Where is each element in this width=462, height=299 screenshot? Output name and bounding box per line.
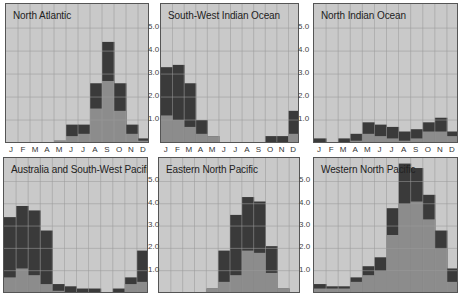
y-tick-label: 3.0 — [298, 68, 312, 77]
y-tick-label: 5.0 — [148, 175, 162, 184]
y-tick-label: 1.0 — [148, 114, 162, 123]
bars-north-atlantic — [6, 4, 149, 143]
month-label: N — [276, 145, 288, 154]
month-label: F — [17, 145, 29, 154]
panel-australia-sw-pacific: Australia and South-West Pacific — [3, 157, 148, 293]
month-label: J — [77, 145, 89, 154]
month-label: M — [183, 145, 195, 154]
y-tick-label: 4.0 — [148, 45, 162, 54]
month-label: M — [206, 145, 218, 154]
month-label: M — [361, 145, 373, 154]
month-label: A — [41, 145, 53, 154]
month-label: J — [218, 145, 230, 154]
panel-north-indian-ocean: North Indian Ocean — [313, 3, 458, 143]
panel-north-atlantic: North Atlantic — [5, 3, 149, 143]
bars-australia-sw-pacific — [4, 158, 148, 293]
panel-title: South-West Indian Ocean — [168, 10, 280, 21]
y-tick-label: 2.0 — [148, 91, 162, 100]
month-axis-south-west-indian: JFMAMJJASOND — [160, 145, 299, 154]
month-label: O — [264, 145, 276, 154]
y-tick-label: 3.0 — [148, 220, 162, 229]
y-tick-label: 4.0 — [298, 45, 312, 54]
panel-title: North Indian Ocean — [321, 10, 406, 21]
y-tick-label: 4.0 — [148, 198, 162, 207]
month-label: J — [313, 145, 325, 154]
y-tick-label: 1.0 — [299, 265, 313, 274]
month-label: A — [89, 145, 101, 154]
month-label: J — [5, 145, 17, 154]
y-tick-label: 4.0 — [299, 198, 313, 207]
month-label: J — [385, 145, 397, 154]
month-label: J — [373, 145, 385, 154]
month-label: A — [398, 145, 410, 154]
month-label: F — [172, 145, 184, 154]
month-label: N — [434, 145, 446, 154]
month-label: O — [422, 145, 434, 154]
month-label: A — [349, 145, 361, 154]
panel-title: Eastern North Pacific — [166, 164, 258, 175]
y-tick-label: 2.0 — [148, 242, 162, 251]
month-label: D — [287, 145, 299, 154]
bars-western-north-pacific — [314, 158, 458, 293]
bars-eastern-north-pacific — [159, 158, 300, 293]
month-label: J — [160, 145, 172, 154]
panel-eastern-north-pacific: Eastern North Pacific — [158, 157, 300, 293]
month-label: S — [410, 145, 422, 154]
panel-title: North Atlantic — [13, 10, 71, 21]
month-label: O — [113, 145, 125, 154]
y-tick-label: 5.0 — [299, 175, 313, 184]
month-label: M — [53, 145, 65, 154]
y-tick-label: 3.0 — [148, 68, 162, 77]
month-label: J — [229, 145, 241, 154]
y-tick-label: 5.0 — [148, 22, 162, 31]
y-tick-label: 1.0 — [298, 114, 312, 123]
panel-south-west-indian-ocean: South-West Indian Ocean — [160, 3, 299, 143]
panel-title: Australia and South-West Pacific — [11, 164, 148, 175]
month-axis-north-atlantic: JFMAMJJASOND — [5, 145, 149, 154]
month-axis-north-indian: JFMAMJJASOND — [313, 145, 458, 154]
month-label: D — [137, 145, 149, 154]
y-tick-label: 2.0 — [298, 91, 312, 100]
month-label: N — [125, 145, 137, 154]
month-label: A — [195, 145, 207, 154]
y-tick-label: 1.0 — [148, 265, 162, 274]
month-label: F — [325, 145, 337, 154]
month-label: S — [101, 145, 113, 154]
y-tick-label: 3.0 — [299, 220, 313, 229]
panel-title: Western North Pacific — [321, 164, 415, 175]
month-label: S — [253, 145, 265, 154]
month-label: D — [446, 145, 458, 154]
month-label: A — [241, 145, 253, 154]
month-label: M — [29, 145, 41, 154]
bars-north-indian-ocean — [314, 4, 458, 143]
month-label: J — [65, 145, 77, 154]
month-label: M — [337, 145, 349, 154]
panel-western-north-pacific: Western North Pacific — [313, 157, 458, 293]
y-tick-label: 2.0 — [299, 242, 313, 251]
y-tick-label: 5.0 — [298, 22, 312, 31]
bars-south-west-indian-ocean — [161, 4, 299, 143]
